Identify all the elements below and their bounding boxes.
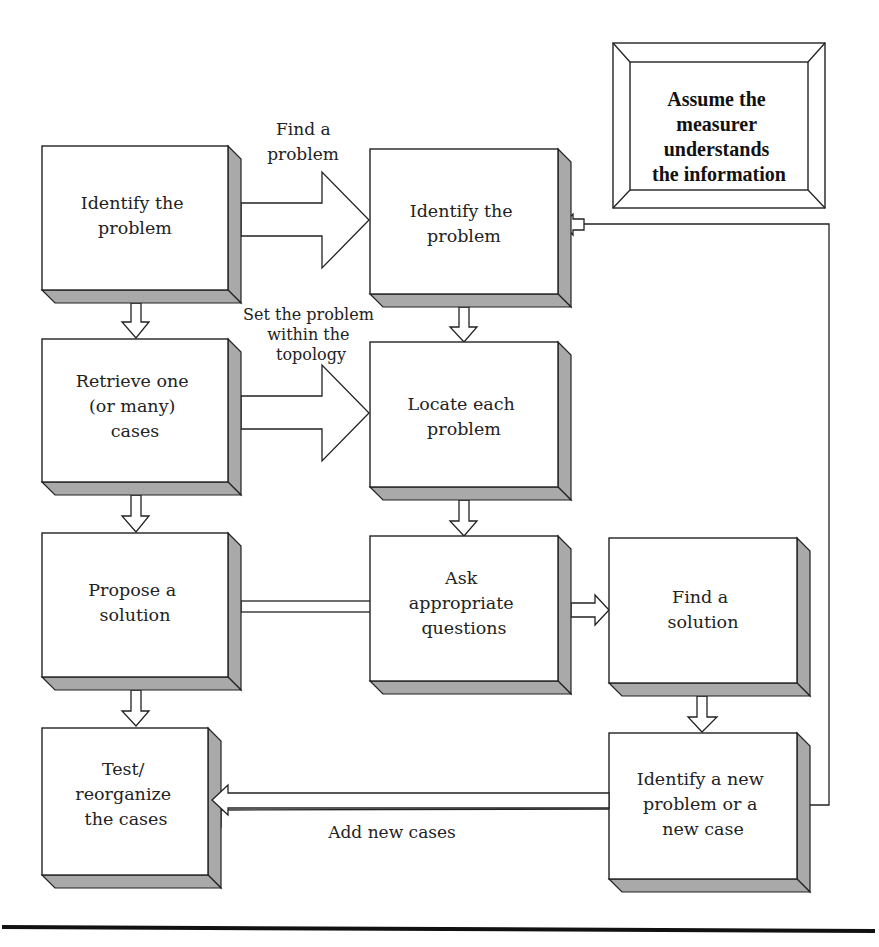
- box-identify-problem-left: Identify the problem: [42, 146, 241, 303]
- box-ask-questions-line-2: appropriate: [409, 593, 514, 613]
- arrow-col1-3: [122, 690, 149, 726]
- box-retrieve-cases-line-1: Retrieve one: [76, 371, 189, 391]
- box-retrieve-cases-line-2: (or many): [89, 396, 175, 416]
- box-test-reorganize-line-3: the cases: [85, 809, 168, 829]
- note-line-2: measurer: [676, 113, 757, 135]
- arrow-col2-1: [450, 307, 477, 342]
- arrow-col3-1: [688, 696, 717, 732]
- arrow-find-problem: [241, 172, 369, 268]
- box-test-reorganize-line-1: Test/: [102, 759, 145, 779]
- box-identify-problem-left-line-2: problem: [98, 218, 172, 238]
- arrow-col2-2: [450, 500, 477, 536]
- box-propose-solution-line-1: Propose a: [88, 580, 176, 600]
- label-find-problem: Find a problem: [267, 119, 339, 164]
- box-ask-questions-line-3: questions: [421, 618, 506, 638]
- box-identify-problem-left-line-1: Identify the: [81, 193, 184, 213]
- box-identify-problem-mid: Identify the problem: [370, 149, 571, 307]
- box-test-reorganize: Test/ reorganize the cases: [42, 728, 221, 888]
- arrow-ask-find: [571, 595, 609, 625]
- label-add-new-cases: Add new cases: [327, 822, 456, 842]
- box-find-solution-line-1: Find a: [672, 587, 728, 607]
- box-propose-solution: Propose a solution: [42, 533, 241, 690]
- note-frame: Assume the measurer understands the info…: [613, 43, 825, 208]
- box-find-solution: Find a solution: [609, 538, 810, 696]
- label-set-problem: Set the problem within the topology: [243, 305, 379, 364]
- box-identify-new-problem-line-2: problem or a: [643, 794, 757, 814]
- box-retrieve-cases-line-3: cases: [111, 421, 160, 441]
- bottom-rule: [2, 925, 875, 933]
- arrow-col1-2: [122, 495, 149, 532]
- box-locate-problem-line-2: problem: [427, 419, 501, 439]
- box-identify-new-problem-line-1: Identify a new: [637, 769, 764, 789]
- note-line-1: Assume the: [667, 88, 765, 110]
- box-identify-new-problem: Identify a new problem or a new case: [609, 733, 810, 892]
- box-identify-new-problem-line-3: new case: [662, 819, 744, 839]
- box-find-solution-line-2: solution: [668, 612, 739, 632]
- box-ask-questions: Ask appropriate questions: [370, 536, 571, 694]
- box-ask-questions-line-1: Ask: [444, 568, 478, 588]
- note-line-4: the information: [652, 163, 786, 185]
- note-line-3: understands: [664, 138, 770, 160]
- box-retrieve-cases: Retrieve one (or many) cases: [42, 339, 241, 495]
- arrow-set-problem: [241, 365, 369, 461]
- box-locate-problem: Locate each problem: [370, 342, 571, 500]
- case-based-reasoning-flow-diagram: Assume the measurer understands the info…: [0, 0, 879, 947]
- connector-propose-ask: [241, 601, 371, 612]
- box-identify-problem-mid-line-2: problem: [427, 226, 501, 246]
- box-locate-problem-line-1: Locate each: [408, 394, 515, 414]
- box-propose-solution-line-2: solution: [100, 605, 171, 625]
- box-test-reorganize-line-2: reorganize: [75, 784, 171, 804]
- arrow-col1-1: [122, 303, 149, 338]
- box-identify-problem-mid-line-1: Identify the: [410, 201, 513, 221]
